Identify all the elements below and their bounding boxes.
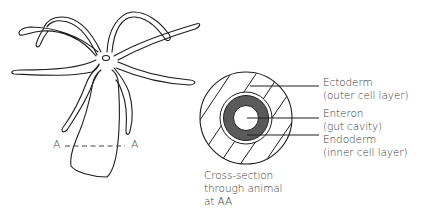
caption-line-1: Cross-section [204, 169, 273, 181]
label-enteron-detail: (gut cavity) [323, 120, 382, 132]
label-ectoderm-detail: (outer cell layer) [323, 89, 408, 101]
tentacle-arc-right [107, 12, 170, 52]
tentacle-left [12, 60, 99, 75]
hydra-drawing [12, 12, 200, 177]
tentacle-hanging-right [114, 68, 132, 134]
label-endoderm: Endoderm [323, 133, 376, 145]
body-column [71, 70, 120, 177]
mouth [103, 56, 110, 61]
label-ectoderm: Ectoderm [323, 76, 373, 88]
label-endoderm-detail: (inner cell layer) [323, 146, 407, 158]
label-enteron: Enteron [323, 107, 363, 119]
caption-line-3: at AA [204, 195, 232, 207]
section-marker-left: A [53, 139, 60, 151]
tentacle-right [116, 62, 195, 85]
section-marker-right: A [131, 139, 138, 151]
caption-line-2: through animal [204, 182, 282, 194]
tentacle-upper-left [19, 27, 98, 56]
